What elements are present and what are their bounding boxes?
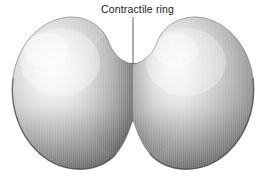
- dividing-cell-illustration: [0, 0, 266, 183]
- figure-root: Contractile ring: [0, 0, 266, 183]
